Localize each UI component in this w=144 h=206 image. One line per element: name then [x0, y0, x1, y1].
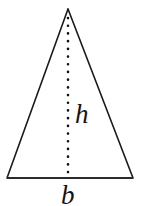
geometry-figure: h b — [0, 0, 144, 206]
triangle-diagram-svg — [0, 0, 144, 206]
figure-background — [0, 0, 144, 206]
height-label-h: h — [75, 101, 89, 128]
base-label-b: b — [61, 182, 75, 206]
